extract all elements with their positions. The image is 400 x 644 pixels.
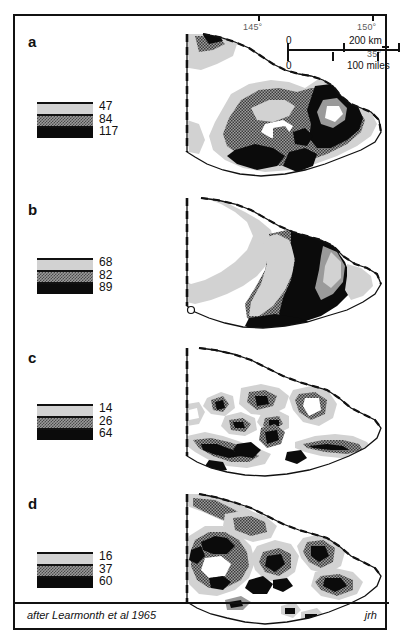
panel-c-map [165,338,389,488]
legend-value-3: 89 [99,281,112,294]
figure-footer: after Learmonth et al 1965 jrh [15,602,389,628]
source-note: after Learmonth et al 1965 [27,609,156,621]
legend-swatches [37,552,93,590]
legend-value-1: 68 [99,256,112,269]
legend-values: 47 84 117 [99,100,118,138]
legend-value-3: 64 [99,427,112,440]
legend-values: 68 82 89 [99,256,112,294]
legend-band-light [37,554,93,564]
panel-b-map [165,190,389,340]
legend-values: 16 37 60 [99,550,112,588]
legend-value-1: 47 [99,100,118,113]
figure-map-series: a 47 84 117 145° 150° 35° [0,0,400,644]
graticule-tick-150 [372,16,374,21]
legend-value-3: 117 [99,125,118,138]
legend-value-3: 60 [99,575,112,588]
legend-swatches [37,258,93,296]
legend-band-mid [37,116,93,126]
legend-band-light [37,406,93,416]
legend-swatches [37,102,93,140]
figure-frame: a 47 84 117 145° 150° 35° [13,14,387,630]
legend-band-mid [37,418,93,428]
legend-band-light [37,104,93,114]
scale-tick-km-200 [398,43,400,52]
panel-c-label: c [28,350,36,365]
legend-band-dark [37,128,93,138]
panel-a-label: a [28,34,36,49]
legend-band-dark [37,578,93,588]
panel-a: a 47 84 117 145° 150° 35° [15,16,389,186]
graticule-tick-145 [258,16,260,21]
author-initials: jrh [365,609,377,621]
panel-c: c 14 26 64 [15,334,389,482]
legend-value-1: 16 [99,550,112,563]
legend-band-mid [37,566,93,576]
panel-b: b 68 82 89 [15,186,389,334]
legend-band-light [37,260,93,270]
legend-band-dark [37,284,93,294]
panel-a-map [165,24,389,186]
legend-values: 14 26 64 [99,402,112,440]
panel-d-label: d [28,496,37,511]
panel-b-label: b [28,202,37,217]
legend-band-dark [37,430,93,440]
legend-value-1: 14 [99,402,112,415]
panel-d: d 16 37 60 [15,482,389,608]
legend-band-mid [37,272,93,282]
legend-swatches [37,404,93,442]
